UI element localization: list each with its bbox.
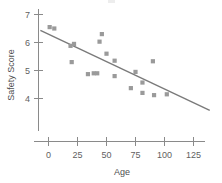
y-axis-title: Safety Score [6,49,16,101]
x-tick-label-0: 0 [46,150,51,160]
data-point [151,59,155,63]
data-point [113,59,117,63]
y-tick-label-6: 6 [25,38,30,48]
y-tick-label-5: 5 [25,66,30,76]
y-tick-label-7: 7 [25,10,30,20]
data-point [129,86,133,90]
data-point [48,25,52,29]
data-point [70,60,74,64]
trend-line [40,30,209,110]
y-axis-tick-labels: 7 6 5 4 [25,10,30,104]
x-tick-label-25: 25 [72,150,82,160]
data-point [52,26,56,30]
x-tick-label-100: 100 [157,150,172,160]
data-point [165,92,169,96]
x-tick-label-75: 75 [130,150,140,160]
data-point [95,71,99,75]
x-axis-title: Age [114,167,130,177]
data-point [72,42,76,46]
plot-area: 7 6 5 4 0 25 50 75 100 125 Age Safety Sc… [0,0,222,183]
data-point [113,74,117,78]
data-points-group [48,25,169,97]
data-point [104,52,108,56]
data-point [100,32,104,36]
x-axis-tick-labels: 0 25 50 75 100 125 [46,150,201,160]
y-tick-label-4: 4 [25,94,30,104]
x-tick-label-50: 50 [101,150,111,160]
data-point [140,91,144,95]
data-point [86,72,90,76]
x-tick-label-125: 125 [186,150,201,160]
data-point [97,40,101,44]
cropped-title-artifact [108,0,115,3]
data-point [152,93,156,97]
scatter-chart-figure: 7 6 5 4 0 25 50 75 100 125 Age Safety Sc… [0,0,222,183]
data-point [140,80,144,84]
data-point [133,70,137,74]
